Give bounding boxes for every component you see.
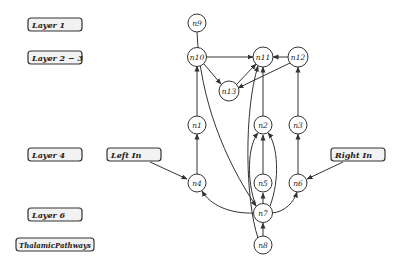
node-label: n12 [291,53,306,62]
node-n7: n7 [254,204,273,223]
edges [150,32,343,238]
layer-label-text: Layer 4 [31,150,66,160]
input-left-in: Left In [107,148,161,161]
node-n10: n10 [188,48,207,67]
node-n4: n4 [188,174,206,192]
layer-label-text: Layer 1 [31,20,65,30]
node-n13: n13 [219,81,239,101]
layer-label-layer6: Layer 6 [28,208,82,221]
layer-label-text: Layer 6 [31,210,66,220]
node-label: n2 [258,121,268,130]
node-n3: n3 [289,116,307,134]
node-n11: n11 [253,47,273,67]
layer-label-text: Layer 2 − 3 [31,53,83,63]
edge-n7-n6 [272,192,297,213]
node-label: n11 [256,53,270,62]
input-label-text: Right In [334,150,372,160]
layer-label-layer1: Layer 1 [28,18,82,31]
edge-n7-n2-right [268,133,277,206]
node-label: n10 [190,53,205,62]
node-n1: n1 [188,116,206,134]
input-label-text: Left In [110,150,141,160]
node-label: n4 [192,179,202,188]
node-n12: n12 [288,47,308,67]
layer-label-layer23: Layer 2 − 3 [28,51,83,64]
edge-n7-n2-left [249,133,258,206]
node-label: n6 [293,179,303,188]
neural-graph-diagram: Layer 1 Layer 2 − 3 Layer 4 Layer 6 Thal… [0,0,399,270]
edge-n13-n11 [236,64,256,85]
edge-rightin-n6 [307,162,343,179]
layer-label-text: ThalamicPathways [19,240,91,250]
node-label: n9 [192,19,202,28]
node-n9: n9 [188,14,206,32]
layer-label-thalamic: ThalamicPathways [16,238,94,251]
input-right-in: Right In [331,148,385,161]
node-n5: n5 [254,174,272,192]
node-n8: n8 [254,236,272,254]
node-label: n5 [258,179,268,188]
node-label: n8 [258,241,268,250]
node-label: n7 [258,209,268,218]
node-label: n13 [222,87,237,96]
node-n6: n6 [289,174,307,192]
layer-label-layer4: Layer 4 [28,148,82,161]
node-label: n3 [293,121,303,130]
edge-leftin-n4 [150,162,187,179]
node-label: n1 [192,121,202,130]
edge-n7-n4 [202,191,254,213]
node-n2: n2 [254,116,272,134]
edge-n10-n13 [204,64,221,84]
